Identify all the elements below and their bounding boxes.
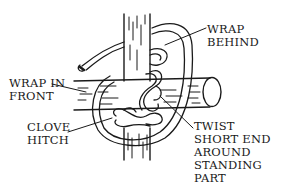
label-clove-hitch: CLOVE HITCH — [27, 121, 70, 147]
label-twist-short-end: TWIST SHORT END AROUND STANDING PART — [194, 120, 271, 185]
label-line: BEHIND — [207, 36, 259, 49]
rope-wrap — [78, 24, 192, 146]
horizontal-pole — [74, 78, 221, 111]
label-wrap-behind: WRAP BEHIND — [207, 23, 259, 49]
label-line: PART — [194, 172, 271, 185]
label-line: FRONT — [9, 90, 65, 103]
label-wrap-in-front: WRAP IN FRONT — [9, 77, 65, 103]
leader-wrap-behind — [165, 28, 206, 45]
label-line: HITCH — [27, 134, 70, 147]
